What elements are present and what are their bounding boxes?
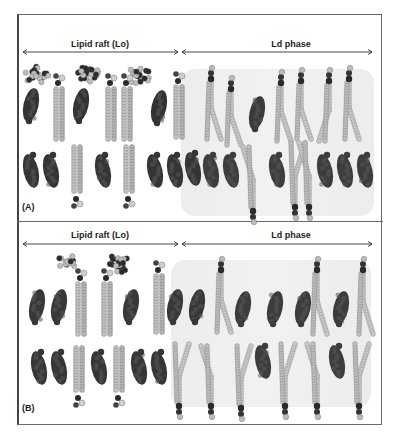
cholesterol-molecule — [28, 349, 50, 386]
unsaturated-lipid-molecule — [357, 256, 376, 336]
saturated-lipid-molecule — [53, 73, 65, 141]
cholesterol-molecule — [252, 343, 274, 380]
saturated-lipid-molecule — [71, 145, 83, 209]
unsaturated-lipid-molecule — [215, 256, 234, 334]
panel-tag-a: (A) — [22, 202, 35, 212]
unsaturated-lipid-molecule — [279, 342, 298, 420]
saturated-lipid-molecule — [113, 346, 125, 408]
cholesterol-molecule — [164, 288, 186, 325]
panel-b: Lipid raft (Lo) Ld phase (B) — [19, 222, 382, 425]
saturated-lipid-molecule — [75, 268, 87, 336]
unsaturated-lipid-molecule — [295, 67, 314, 141]
cholesterol-molecule — [292, 290, 314, 327]
membrane-molecules-a — [19, 15, 382, 221]
panel-tag-b: (B) — [22, 403, 35, 413]
unsaturated-lipid-molecule — [275, 69, 294, 143]
unsaturated-lipid-molecule — [311, 256, 330, 336]
cholesterol-molecule — [88, 349, 110, 386]
unsaturated-lipid-molecule — [225, 75, 244, 147]
cholesterol-molecule — [148, 349, 170, 386]
cholesterol-molecule — [40, 152, 62, 189]
cholesterol-molecule — [326, 343, 348, 380]
panel-a: Lipid raft (Lo) Ld phase (A) — [19, 15, 382, 221]
unsaturated-lipid-molecule — [205, 65, 224, 141]
cholesterol-molecule — [70, 87, 92, 124]
saturated-lipid-molecule — [153, 260, 165, 334]
cholesterol-molecule — [92, 152, 114, 189]
ganglioside-headgroup — [23, 64, 51, 85]
cholesterol-molecule — [128, 349, 150, 386]
unsaturated-lipid-molecule — [353, 342, 372, 420]
cholesterol-molecule — [48, 349, 70, 386]
cholesterol-molecule — [48, 288, 70, 325]
membrane-molecules-b — [19, 222, 382, 425]
cholesterol-molecule — [334, 152, 356, 189]
unsaturated-lipid-molecule — [297, 141, 313, 221]
cholesterol-molecule — [354, 152, 376, 189]
cholesterol-molecule — [120, 288, 142, 325]
saturated-lipid-molecule — [73, 346, 85, 408]
unsaturated-lipid-molecule — [173, 342, 192, 420]
cholesterol-molecule — [314, 152, 336, 189]
cholesterol-molecule — [266, 152, 288, 189]
cholesterol-molecule — [186, 288, 208, 325]
saturated-lipid-molecule — [105, 73, 117, 141]
cholesterol-molecule — [26, 288, 48, 325]
unsaturated-lipid-molecule — [343, 65, 362, 141]
saturated-lipid-molecule — [101, 268, 113, 336]
cholesterol-molecule — [182, 150, 204, 187]
unsaturated-lipid-molecule — [199, 344, 215, 420]
cholesterol-molecule — [232, 290, 254, 327]
cholesterol-molecule — [246, 95, 268, 132]
cholesterol-molecule — [264, 290, 286, 327]
unsaturated-lipid-molecule — [305, 342, 321, 420]
cholesterol-molecule — [220, 152, 242, 189]
cholesterol-molecule — [144, 152, 166, 189]
cholesterol-molecule — [20, 87, 42, 124]
unsaturated-lipid-molecule — [317, 67, 333, 143]
ganglioside-headgroup — [75, 65, 100, 84]
cholesterol-molecule — [200, 152, 222, 189]
cholesterol-molecule — [148, 89, 170, 126]
cholesterol-molecule — [164, 152, 186, 189]
saturated-lipid-molecule — [173, 71, 185, 139]
unsaturated-lipid-molecule — [241, 145, 257, 225]
unsaturated-lipid-molecule — [235, 344, 254, 422]
saturated-lipid-molecule — [123, 145, 135, 209]
cholesterol-molecule — [20, 152, 42, 189]
cholesterol-molecule — [330, 290, 352, 327]
ganglioside-headgroup — [57, 254, 77, 269]
